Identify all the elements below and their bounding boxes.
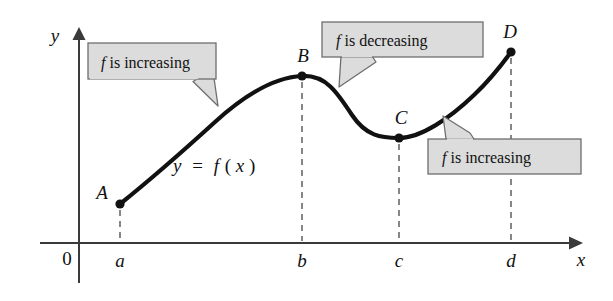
y-axis-label: y — [49, 25, 60, 46]
callout-increasing-2-tail — [443, 116, 474, 139]
point-label-D: D — [502, 21, 517, 42]
x-tick-label-d: d — [506, 250, 516, 271]
callout-increasing-2-label: f is increasing — [442, 149, 531, 167]
point-marker-D — [506, 47, 515, 56]
point-label-A: A — [94, 182, 108, 203]
callout-increasing-1-label: f is increasing — [101, 54, 190, 72]
curve-equation-label: y = f ( x ) — [171, 155, 255, 177]
equation-y: y — [171, 155, 182, 176]
x-tick-label-a: a — [115, 250, 125, 271]
callout-3-text: is increasing — [446, 149, 530, 167]
callout-increasing-2: f is increasing — [428, 116, 581, 174]
point-label-C: C — [395, 107, 408, 128]
callout-decreasing: f is decreasing — [322, 22, 483, 87]
point-marker-A — [115, 199, 124, 208]
callout-increasing-1: f is increasing — [88, 43, 218, 106]
callout-decreasing-tail — [339, 56, 376, 87]
y-axis-arrowhead — [73, 27, 86, 40]
figure-canvas: y x 0 a b c d A B C D y = — [0, 0, 613, 301]
x-axis-arrowhead — [569, 237, 583, 250]
equation-x: x — [235, 155, 245, 176]
origin-label: 0 — [62, 248, 72, 269]
point-marker-C — [394, 133, 403, 142]
x-tick-label-b: b — [297, 250, 307, 271]
function-graph-figure: y x 0 a b c d A B C D y = — [0, 0, 613, 301]
equation-paren-close: ) — [249, 155, 255, 177]
point-marker-B — [297, 71, 306, 80]
callout-1-text: is increasing — [105, 54, 189, 72]
x-tick-label-c: c — [395, 250, 404, 271]
equation-paren-open: ( — [225, 155, 231, 177]
point-label-B: B — [297, 45, 309, 66]
equation-f: f — [214, 155, 222, 176]
equation-equals: = — [192, 155, 203, 176]
callout-2-text: is decreasing — [340, 32, 427, 50]
callout-increasing-1-tail — [193, 78, 218, 106]
x-axis-label: x — [576, 249, 586, 270]
callout-decreasing-label: f is decreasing — [336, 32, 428, 50]
